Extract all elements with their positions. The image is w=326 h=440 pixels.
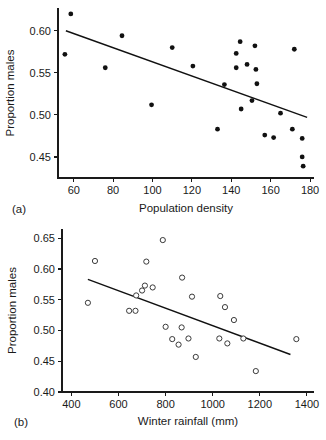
data-point bbox=[150, 285, 155, 290]
data-point bbox=[68, 11, 73, 16]
y-axis-tick-label: 0.45 bbox=[30, 151, 51, 163]
x-axis-tick-label: 800 bbox=[156, 398, 174, 410]
data-point bbox=[189, 294, 194, 299]
x-axis-tick-label: 1200 bbox=[248, 398, 272, 410]
data-point bbox=[144, 259, 149, 264]
x-axis-tick-label: 160 bbox=[261, 184, 279, 196]
y-axis-tick-label: 0.60 bbox=[34, 263, 55, 275]
x-axis-tick-label: 80 bbox=[107, 184, 119, 196]
data-point bbox=[103, 65, 108, 70]
x-axis-tick-label: 100 bbox=[143, 184, 161, 196]
data-point bbox=[262, 133, 267, 138]
data-point bbox=[85, 300, 90, 305]
data-point bbox=[250, 98, 255, 103]
x-axis-tick-label: 1000 bbox=[200, 398, 224, 410]
data-point bbox=[254, 81, 259, 86]
regression-trend-line bbox=[88, 279, 291, 354]
data-point bbox=[234, 51, 239, 56]
data-point bbox=[120, 33, 125, 38]
data-point bbox=[222, 82, 227, 87]
x-axis-tick-label: 140 bbox=[222, 184, 240, 196]
x-axis-title: Winter rainfall (mm) bbox=[138, 415, 238, 427]
data-point bbox=[186, 336, 191, 341]
data-point bbox=[62, 52, 67, 57]
data-point bbox=[225, 341, 230, 346]
data-point bbox=[92, 258, 97, 263]
data-point bbox=[139, 288, 144, 293]
figure-container: 0.450.500.550.606080100120140160180Popul… bbox=[0, 0, 326, 440]
data-point bbox=[176, 342, 181, 347]
data-point bbox=[218, 293, 223, 298]
data-point bbox=[245, 62, 250, 67]
data-point bbox=[239, 107, 244, 112]
y-axis-tick-label: 0.55 bbox=[30, 67, 51, 79]
x-axis-tick-label: 400 bbox=[62, 398, 80, 410]
data-point bbox=[222, 305, 227, 310]
y-axis-tick-label: 0.55 bbox=[34, 294, 55, 306]
x-axis-tick-label: 60 bbox=[68, 184, 80, 196]
data-point bbox=[193, 354, 198, 359]
data-point bbox=[160, 237, 165, 242]
data-point bbox=[142, 283, 147, 288]
data-point bbox=[234, 65, 239, 70]
plot-axes bbox=[58, 8, 314, 178]
x-axis-tick-label: 120 bbox=[183, 184, 201, 196]
data-point bbox=[271, 135, 276, 140]
panel-a-scatter-population-density: 0.450.500.550.606080100120140160180Popul… bbox=[0, 0, 326, 220]
data-point bbox=[278, 111, 283, 116]
data-point bbox=[133, 308, 138, 313]
data-point bbox=[241, 336, 246, 341]
x-axis-tick-label: 1400 bbox=[295, 398, 319, 410]
data-point bbox=[217, 336, 222, 341]
data-point bbox=[292, 47, 297, 52]
data-point bbox=[300, 136, 305, 141]
data-point bbox=[134, 293, 139, 298]
data-point bbox=[180, 275, 185, 280]
y-axis-tick-label: 0.45 bbox=[34, 355, 55, 367]
y-axis-tick-label: 0.65 bbox=[34, 232, 55, 244]
panel-a-plot-area: 0.450.500.550.606080100120140160180Popul… bbox=[0, 0, 326, 220]
y-axis-tick-label: 0.50 bbox=[34, 324, 55, 336]
data-point bbox=[253, 43, 258, 48]
data-point bbox=[190, 64, 195, 69]
y-axis-tick-label: 0.50 bbox=[30, 109, 51, 121]
y-axis-tick-label: 0.40 bbox=[34, 386, 55, 398]
data-point bbox=[290, 127, 295, 132]
y-axis-title: Proportion males bbox=[6, 267, 18, 354]
data-point bbox=[170, 45, 175, 50]
panel-label: (a) bbox=[12, 203, 26, 215]
panel-b-scatter-winter-rainfall: 0.400.450.500.550.600.654006008001000120… bbox=[0, 215, 326, 440]
data-point bbox=[179, 325, 184, 330]
y-axis-tick-label: 0.60 bbox=[30, 25, 51, 37]
data-point bbox=[127, 308, 132, 313]
data-point bbox=[215, 127, 220, 132]
panel-label: (b) bbox=[14, 416, 28, 428]
x-axis-tick-label: 600 bbox=[109, 398, 127, 410]
data-point bbox=[149, 102, 154, 107]
data-point bbox=[170, 337, 175, 342]
data-point bbox=[294, 337, 299, 342]
data-point bbox=[231, 317, 236, 322]
data-point bbox=[238, 39, 243, 44]
data-point bbox=[253, 368, 258, 373]
caption-partial-text bbox=[0, 428, 326, 440]
data-point bbox=[163, 324, 168, 329]
data-point bbox=[254, 67, 259, 72]
panel-b-plot-area: 0.400.450.500.550.600.654006008001000120… bbox=[0, 215, 326, 440]
y-axis-title: Proportion males bbox=[4, 49, 16, 136]
plot-axes bbox=[62, 229, 314, 392]
regression-trend-line bbox=[66, 31, 307, 118]
x-axis-title: Population density bbox=[139, 202, 233, 214]
data-point bbox=[300, 155, 305, 160]
data-point bbox=[301, 164, 306, 169]
x-axis-tick-label: 180 bbox=[301, 184, 319, 196]
